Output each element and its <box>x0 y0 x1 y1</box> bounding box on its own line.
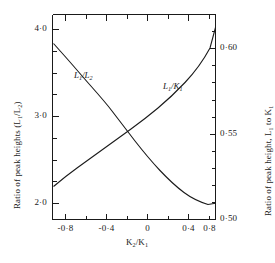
curve-l1-over-k1 <box>54 28 216 187</box>
right-axis-title-prefix: Ratio of peak height, L <box>263 130 273 216</box>
right-axis-title-mid: to K <box>263 109 273 128</box>
x-axis-title: K2/K1 <box>126 237 148 248</box>
curve-label-l1-over-k1: L1/K1 <box>163 81 183 92</box>
left-axis-ticks <box>53 30 59 204</box>
bottom-axis-ticks <box>66 214 210 220</box>
x-tick-label-0: 0 <box>129 223 166 233</box>
left-axis-title-suffix: ) <box>12 101 22 104</box>
right-tick-label-0-55: 0·55 <box>220 128 260 138</box>
curve-label-rising-sub2: 1 <box>180 86 183 92</box>
curve-label-l1-over-l2: L1/L2 <box>74 70 93 81</box>
left-axis-title-sub1: 1 <box>17 116 23 119</box>
x-axis-title-prefix: K <box>126 237 133 247</box>
left-axis-title-mid: /L <box>12 108 22 116</box>
x-axis-title-sub2: 1 <box>145 242 148 248</box>
x-tick-label-minus-0-4: -0·4 <box>88 223 125 233</box>
curve-label-falling-sub2: 2 <box>90 75 93 81</box>
right-tick-label-0-50: 0·50 <box>220 213 260 223</box>
right-axis-title-sub2: 1 <box>268 106 274 109</box>
x-axis-title-mid: /K <box>136 237 145 247</box>
right-axis-ticks <box>210 32 216 220</box>
axis-frame <box>53 15 216 220</box>
left-tick-label-4-0: 4·0 <box>14 23 47 33</box>
curve-label-rising-mid: /K <box>171 81 180 91</box>
right-axis-title-sub1: 1 <box>268 127 274 130</box>
x-tick-label-minus-0-8: -0·8 <box>47 223 84 233</box>
left-axis-title: Ratio of peak heights (L1/L2) <box>12 101 23 209</box>
top-axis-ticks <box>66 15 210 21</box>
left-axis-title-sub2: 2 <box>17 105 23 108</box>
x-tick-label-0-8: 0·8 <box>191 223 228 233</box>
right-axis-title: Ratio of peak height, L1 to K1 <box>263 106 274 216</box>
chart-figure: 4·0 3·0 2·0 0·60 0·55 0·50 -0·8 -0·4 0 0… <box>0 0 275 263</box>
curve-l1-over-l2 <box>54 44 216 205</box>
right-tick-label-0-60: 0·60 <box>220 42 260 52</box>
left-axis-title-prefix: Ratio of peak heights (L <box>12 119 22 209</box>
curve-label-falling-mid: /L <box>82 70 90 80</box>
